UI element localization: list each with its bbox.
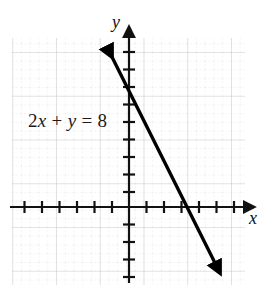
y-axis-label: y (112, 12, 120, 33)
equation-constant: 8 (98, 110, 108, 131)
equation-coefficient: 2 (28, 110, 38, 131)
graph-figure: 2x + y = 8 y x (0, 0, 266, 285)
equation-equals-sign: = (76, 110, 97, 131)
equation-variable-x: x (38, 110, 47, 131)
equation-plus-sign: + (47, 110, 68, 131)
x-axis-label: x (249, 208, 257, 229)
coordinate-plane-svg (0, 0, 266, 285)
equation-label: 2x + y = 8 (28, 110, 107, 132)
